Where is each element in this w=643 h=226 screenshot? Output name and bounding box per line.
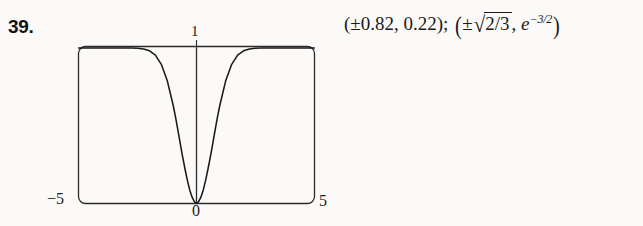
answer-open-paren: ( bbox=[455, 13, 462, 39]
x-axis-origin-label: 0 bbox=[192, 202, 200, 220]
answer-exponent: −3/2 bbox=[529, 12, 552, 26]
graph-figure: 1 −5 5 0 bbox=[45, 18, 340, 226]
y-axis-max-label: 1 bbox=[191, 23, 199, 40]
square-root-icon: √2/3 bbox=[473, 12, 512, 36]
graph-plot bbox=[45, 18, 340, 226]
x-axis-max-label: 5 bbox=[319, 192, 327, 210]
problem-number: 39. bbox=[8, 16, 34, 38]
answer-expression: (±0.82, 0.22); (±√2/3, e−3/2) bbox=[344, 12, 561, 39]
answer-radicand: 2/3 bbox=[484, 12, 511, 33]
x-axis-min-label: −5 bbox=[47, 190, 64, 208]
answer-comma: , bbox=[512, 13, 522, 34]
answer-decimal-pair: (±0.82, 0.22); bbox=[344, 13, 448, 34]
answer-close-paren: ) bbox=[553, 13, 560, 39]
answer-plus-minus: ± bbox=[462, 13, 472, 34]
